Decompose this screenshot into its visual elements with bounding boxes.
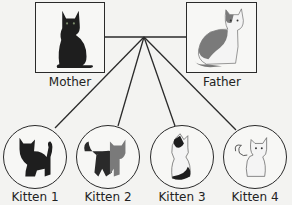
mother-box [35,2,105,73]
kitten-1-circle [3,125,67,189]
gray-white-cat-icon [187,3,256,72]
kitten-4-circle [223,125,287,189]
white-black-kitten-icon [151,126,213,188]
gray-kitten-icon [77,126,139,188]
father-box [186,2,257,73]
white-kitten-icon [224,126,286,188]
kitten-1-label: Kitten 1 [0,190,75,204]
black-cat-icon [36,3,104,72]
kitten-2-label: Kitten 2 [68,190,148,204]
kitten-3-label: Kitten 3 [142,190,222,204]
black-kitten-icon [4,126,66,188]
mother-label: Mother [30,75,110,89]
kitten-3-circle [150,125,214,189]
kitten-4-label: Kitten 4 [215,190,292,204]
father-label: Father [182,75,262,89]
kitten-2-circle [76,125,140,189]
